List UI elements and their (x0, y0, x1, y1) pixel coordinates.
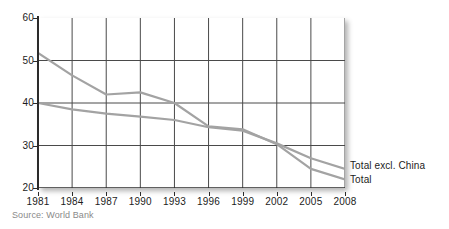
x-tick-mark (277, 192, 278, 196)
chart-figure: 6050403020 19811984198719901993199619992… (0, 0, 449, 229)
y-tick-label-30: 30 (6, 141, 34, 151)
x-axis-tick-labels: 1981198419871990199319961999200220052008 (0, 192, 449, 208)
chart-canvas (38, 18, 345, 188)
x-tick-label-2008: 2008 (325, 196, 365, 208)
y-tick-label-50: 50 (6, 56, 34, 66)
y-tick-label-60: 60 (6, 13, 34, 23)
x-tick-mark (106, 192, 107, 196)
y-tick-mark (33, 18, 39, 19)
x-tick-mark (174, 192, 175, 196)
series-label-total-excl-china: Total excl. China (350, 160, 425, 171)
y-tick-mark (33, 103, 39, 104)
x-tick-mark (243, 192, 244, 196)
x-tick-mark (72, 192, 73, 196)
y-tick-mark (33, 61, 39, 62)
x-tick-mark (345, 192, 346, 196)
x-tick-mark (311, 192, 312, 196)
x-tick-mark (209, 192, 210, 196)
plot-area (38, 18, 345, 188)
y-tick-mark (33, 146, 39, 147)
x-tick-mark (38, 192, 39, 196)
y-tick-mark (33, 188, 39, 189)
series-label-total: Total (350, 174, 372, 185)
series-line-total (38, 53, 345, 180)
source-note: Source: World Bank (12, 210, 94, 220)
x-tick-mark (140, 192, 141, 196)
y-tick-label-40: 40 (6, 98, 34, 108)
horizontal-gridlines (38, 61, 345, 146)
series-lines (38, 53, 345, 180)
